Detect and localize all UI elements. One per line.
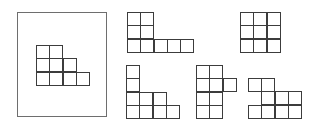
grid-cell [49, 72, 63, 86]
grid-cell [261, 78, 275, 92]
grid-cell [248, 78, 262, 92]
grid-cell [288, 91, 302, 105]
grid-cell [261, 105, 275, 119]
grid-cell [36, 45, 50, 59]
grid-cell [209, 105, 223, 119]
grid-cell [223, 78, 237, 92]
grid-cell [196, 92, 210, 106]
grid-cell [127, 12, 141, 26]
grid-cell [240, 12, 254, 26]
grid-cell [153, 92, 167, 106]
grid-cell [36, 72, 50, 86]
grid-cell [196, 105, 210, 119]
grid-cell [196, 78, 210, 92]
grid-cell [180, 39, 194, 53]
grid-cell [126, 65, 140, 79]
grid-cell [126, 105, 140, 119]
grid-cell [49, 58, 63, 72]
grid-cell [126, 78, 140, 92]
grid-cell [140, 39, 154, 53]
grid-cell [275, 91, 289, 105]
grid-cell [267, 12, 281, 26]
grid-cell [63, 72, 77, 86]
grid-cell [275, 105, 289, 119]
grid-cell [209, 65, 223, 79]
grid-cell [140, 12, 154, 26]
grid-cell [261, 91, 275, 105]
grid-cell [63, 58, 77, 72]
grid-cell [139, 105, 153, 119]
grid-cell [76, 72, 90, 86]
grid-cell [209, 78, 223, 92]
grid-cell [36, 58, 50, 72]
grid-cell [253, 39, 267, 53]
grid-cell [154, 39, 168, 53]
grid-cell [126, 92, 140, 106]
grid-cell [240, 25, 254, 39]
grid-cell [127, 25, 141, 39]
grid-cell [253, 12, 267, 26]
grid-cell [248, 105, 262, 119]
grid-cell [196, 65, 210, 79]
grid-cell [49, 45, 63, 59]
grid-cell [139, 92, 153, 106]
grid-cell [267, 39, 281, 53]
grid-cell [153, 105, 167, 119]
grid-cell [209, 92, 223, 106]
grid-cell [253, 25, 267, 39]
grid-cell [267, 25, 281, 39]
grid-cell [140, 25, 154, 39]
grid-cell [166, 105, 180, 119]
grid-cell [167, 39, 181, 53]
grid-cell [127, 39, 141, 53]
grid-cell [240, 39, 254, 53]
grid-cell [288, 105, 302, 119]
